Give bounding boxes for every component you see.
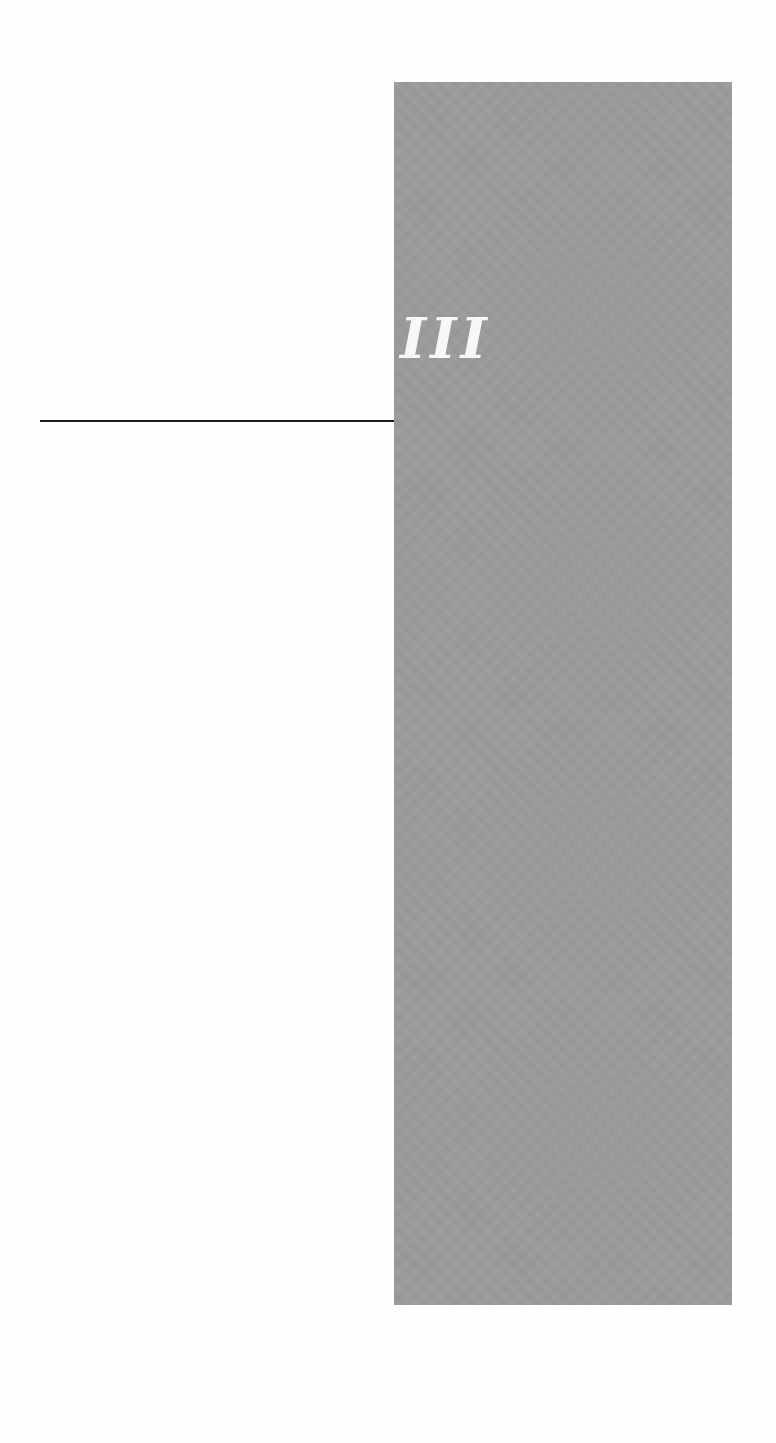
- part-numeral: III: [400, 310, 491, 366]
- gray-panel: III: [394, 82, 732, 1305]
- horizontal-rule: [40, 420, 394, 422]
- part-title-page: III: [0, 0, 776, 1443]
